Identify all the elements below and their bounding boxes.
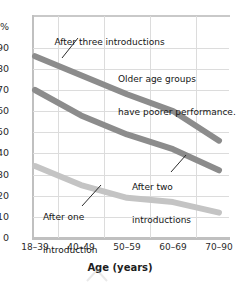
y-axis-tick-value: 70 — [0, 84, 9, 95]
annotation-older-line-1: Older age groups — [118, 74, 236, 85]
y-axis-tick-value: 0 — [0, 232, 9, 243]
line-chart: 100%9080706050403020100 18–3940–4950–596… — [0, 0, 240, 283]
watermark-chevron-icon — [86, 268, 108, 282]
annotation-two-line-2: introductions — [132, 215, 191, 226]
annotation-two-line-1: After two — [132, 182, 191, 193]
y-axis-tick-value: 20 — [0, 190, 9, 201]
y-axis-tick-value: 50 — [0, 126, 9, 137]
y-axis-tick-value: 30 — [0, 169, 9, 180]
y-axis-tick-value: 100% — [0, 21, 9, 32]
y-axis-tick-value: 40 — [0, 147, 9, 158]
annotation-one-line-2: introduction — [43, 245, 97, 256]
annotation-older-age-groups: Older age groups have poorer performance… — [118, 52, 236, 140]
y-axis-tick-value: 10 — [0, 211, 9, 222]
annotation-older-line-2: have poorer performance. — [118, 107, 236, 118]
annotation-after-two-introductions: After two introductions — [132, 160, 191, 248]
annotation-one-line-1: After one — [43, 212, 97, 223]
y-axis-tick-value: 80 — [0, 63, 9, 74]
x-axis-tick-label: 70–90 — [197, 242, 240, 252]
y-axis-tick-value: 60 — [0, 105, 9, 116]
y-axis-tick-value: 90 — [0, 42, 9, 53]
annotation-three-text: After three introductions — [54, 37, 164, 47]
x-axis-title: Age (years) — [0, 262, 240, 273]
